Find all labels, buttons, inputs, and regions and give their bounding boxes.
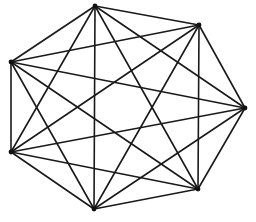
edge-v2-v3: [198, 108, 245, 189]
vertex-v5: [9, 150, 14, 155]
edge-v0-v3: [95, 6, 198, 189]
edge-v0-v5: [11, 6, 95, 152]
edge-v0-v4: [94, 6, 95, 209]
edges-group: [11, 6, 245, 209]
vertex-v1: [197, 23, 202, 28]
vertices-group: [9, 4, 248, 212]
edge-v1-v4: [94, 25, 199, 209]
vertex-v4: [92, 207, 97, 212]
vertex-v6: [9, 60, 14, 65]
edge-v2-v5: [11, 108, 245, 152]
edge-v1-v2: [199, 25, 245, 108]
vertex-v3: [196, 187, 201, 192]
edge-v1-v3: [198, 25, 199, 189]
vertex-v0: [93, 4, 98, 9]
edge-v4-v6: [11, 62, 94, 209]
complete-graph-diagram: [0, 0, 256, 222]
vertex-v2: [243, 106, 248, 111]
edge-v0-v1: [95, 6, 199, 25]
